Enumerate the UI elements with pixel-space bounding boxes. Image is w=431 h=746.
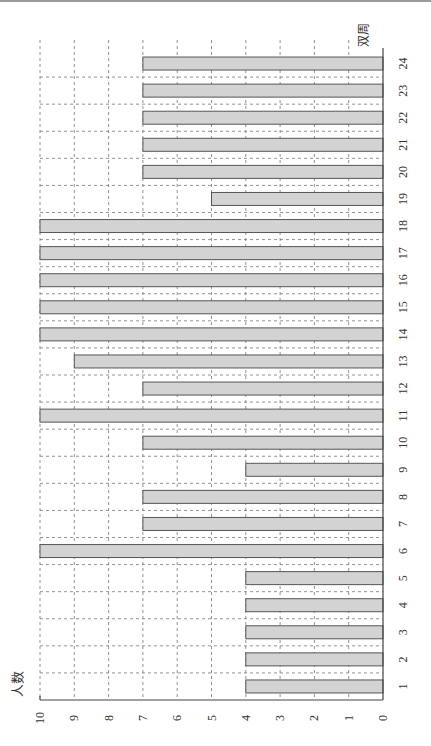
bar-16: [40, 274, 383, 287]
category-tick-label: 19: [396, 193, 410, 205]
bar-7: [143, 517, 383, 530]
category-tick-label: 15: [396, 301, 410, 313]
value-tick-label: 7: [136, 715, 150, 721]
bar-10: [143, 436, 383, 449]
category-tick-label: 22: [396, 112, 410, 124]
bar-11: [40, 409, 383, 422]
bar-2: [246, 653, 383, 666]
bar-20: [143, 165, 383, 178]
category-tick-label: 20: [396, 166, 410, 178]
bar-17: [40, 247, 383, 260]
bar-3: [246, 626, 383, 639]
bar-1: [246, 680, 383, 693]
category-tick-label: 4: [396, 602, 410, 608]
value-tick-label: 4: [239, 715, 253, 721]
category-tick-label: 10: [396, 437, 410, 449]
bar-6: [40, 545, 383, 558]
value-tick-label: 6: [170, 715, 184, 721]
bar-24: [143, 57, 383, 70]
category-tick-label: 17: [396, 247, 410, 259]
value-tick-label: 2: [307, 715, 321, 721]
value-tick-label: 8: [102, 715, 116, 721]
bar-chart: 0123456789101234567891011121314151617181…: [0, 0, 431, 746]
category-tick-label: 9: [396, 467, 410, 473]
category-tick-label: 24: [396, 58, 410, 70]
category-tick-label: 16: [396, 274, 410, 286]
bar-12: [143, 382, 383, 395]
category-tick-label: 13: [396, 355, 410, 367]
bar-21: [143, 138, 383, 151]
bar-23: [143, 84, 383, 97]
bar-13: [74, 355, 383, 368]
value-tick-label: 3: [273, 715, 287, 721]
y-axis-label: 人数: [10, 671, 25, 697]
category-tick-label: 7: [396, 521, 410, 527]
bar-14: [40, 328, 383, 341]
bar-4: [246, 599, 383, 612]
category-tick-label: 18: [396, 220, 410, 232]
bar-15: [40, 301, 383, 314]
category-tick-label: 12: [396, 383, 410, 395]
value-tick-label: 10: [33, 712, 47, 724]
category-tick-label: 21: [396, 139, 410, 151]
category-tick-label: 2: [396, 656, 410, 662]
bar-19: [212, 192, 384, 205]
category-tick-label: 1: [396, 683, 410, 689]
value-tick-label: 1: [342, 715, 356, 721]
bars: [40, 57, 383, 693]
category-tick-label: 14: [396, 328, 410, 340]
category-tick-label: 6: [396, 548, 410, 554]
category-tick-label: 23: [396, 85, 410, 97]
category-tick-label: 11: [396, 410, 410, 422]
x-axis-label: 双周: [357, 23, 371, 47]
bar-8: [143, 490, 383, 503]
category-tick-label: 3: [396, 629, 410, 635]
bar-22: [143, 111, 383, 124]
value-tick-label: 0: [376, 715, 390, 721]
value-tick-label: 9: [67, 715, 81, 721]
bar-5: [246, 572, 383, 585]
bar-9: [246, 463, 383, 476]
category-tick-label: 5: [396, 575, 410, 581]
value-tick-label: 5: [205, 715, 219, 721]
bar-18: [40, 220, 383, 233]
category-tick-label: 8: [396, 494, 410, 500]
